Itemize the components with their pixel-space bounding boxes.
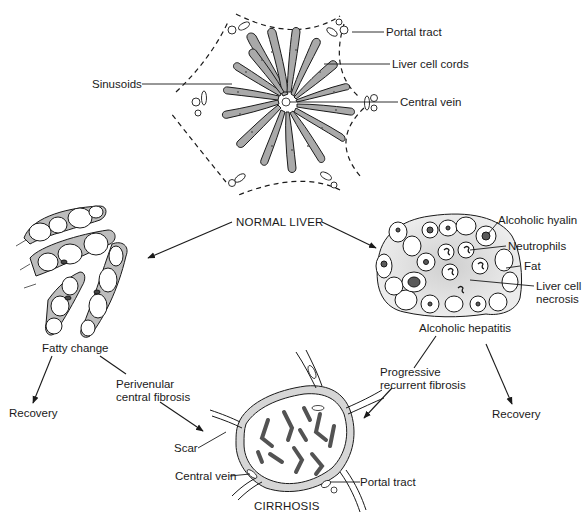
fatty-change-illustration	[16, 206, 127, 337]
arrow-normal-to-hepatitis	[322, 222, 376, 248]
label-perivenular-2: central fibrosis	[116, 391, 190, 404]
label-alcoholic-hyalin: Alcoholic hyalin	[498, 214, 577, 227]
arrow-fatty-to-recovery	[33, 356, 52, 403]
label-liver-cell-necrosis-2: necrosis	[536, 293, 579, 306]
title-cirrhosis: CIRRHOSIS	[254, 500, 320, 512]
title-alcoholic-hepatitis: Alcoholic hepatitis	[419, 322, 511, 335]
arrow-hepatitis-to-progressive	[414, 336, 436, 368]
label-central-vein-cirrhosis: Central vein	[175, 470, 236, 483]
arrow-fatty-to-perivenular	[100, 356, 126, 374]
label-central-vein-normal: Central vein	[400, 96, 461, 109]
label-fat: Fat	[524, 260, 541, 273]
diagram-canvas	[0, 0, 587, 520]
label-portal-tract-cirrhosis: Portal tract	[360, 476, 416, 489]
label-neutrophils: Neutrophils	[508, 240, 566, 253]
label-liver-cell-cords: Liver cell cords	[392, 58, 469, 71]
cirrhosis-illustration	[210, 350, 384, 512]
label-progressive-1: Progressive	[380, 366, 441, 379]
label-recovery-right: Recovery	[492, 408, 541, 421]
label-scar: Scar	[174, 442, 198, 455]
label-portal-tract-normal: Portal tract	[386, 26, 442, 39]
arrow-normal-to-fatty	[148, 222, 232, 258]
label-sinusoids: Sinusoids	[92, 78, 142, 91]
title-fatty-change: Fatty change	[42, 342, 108, 355]
label-recovery-left: Recovery	[9, 407, 58, 420]
arrow-perivenular-to-cirrhosis	[160, 402, 203, 431]
normal-liver-lobule-illustration	[170, 14, 378, 196]
arrow-hepatitis-to-recovery	[486, 344, 512, 404]
title-normal-liver: NORMAL LIVER	[236, 216, 324, 228]
label-perivenular-1: Perivenular	[116, 378, 174, 391]
label-progressive-2: recurrent fibrosis	[380, 379, 466, 392]
label-liver-cell-necrosis-1: Liver cell	[536, 280, 581, 293]
alcoholic-hepatitis-illustration	[376, 214, 522, 317]
